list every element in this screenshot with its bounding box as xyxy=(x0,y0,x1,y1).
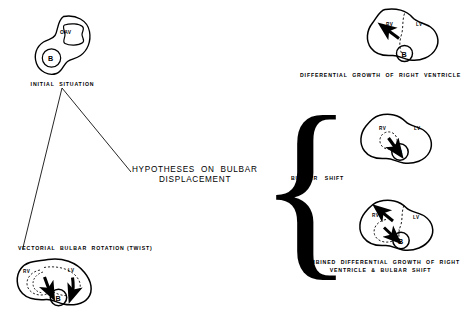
label-b-combined: B xyxy=(398,237,403,246)
label-lv-twist: LV xyxy=(68,268,75,273)
label-b-bulbar-shift: B xyxy=(397,148,402,157)
caption-initial-situation: INITIAL SITUATION xyxy=(0,81,125,89)
caption-vectorial-bulbar-rotation: VECTORIAL BULBAR ROTATION (TWIST) xyxy=(18,245,218,253)
label-b-initial: B xyxy=(48,54,53,63)
label-rv-twist: RV xyxy=(23,269,30,274)
caption-combined-line1: COMBINED DIFFERENTIAL GROWTH OF RIGHT xyxy=(290,259,471,267)
bulbar-displacement-figure: OAV B INITIAL SITUATION VECTORIAL BULBAR… xyxy=(0,0,471,327)
label-rv-differential-growth: RV xyxy=(386,22,393,27)
combined-shape xyxy=(360,200,433,250)
label-b-differential-growth: B xyxy=(402,50,407,59)
twist-shape xyxy=(17,259,91,306)
main-label-line2: DISPLACEMENT xyxy=(159,175,231,186)
label-rv-combined: RV xyxy=(372,213,379,218)
label-bulbar-shift: BULBAR SHIFT xyxy=(291,175,411,183)
connector-lines xyxy=(23,88,132,250)
label-lv-bulbar-shift: LV xyxy=(414,126,421,131)
label-b-twist: B xyxy=(56,294,61,303)
label-rv-bulbar-shift: RV xyxy=(379,126,386,131)
label-oav: OAV xyxy=(60,29,71,35)
diagram-artwork xyxy=(0,0,471,327)
grouping-brace: { xyxy=(258,86,354,286)
main-label-line1: HYPOTHESES ON BULBAR xyxy=(132,165,258,176)
label-lv-combined: LV xyxy=(413,215,420,220)
caption-differential-growth: DIFFERENTIAL GROWTH OF RIGHT VENTRICLE xyxy=(290,72,471,80)
initial-situation-shape xyxy=(35,16,90,74)
label-lv-differential-growth: LV xyxy=(416,22,423,27)
caption-combined-line2: VENTRICLE & BULBAR SHIFT xyxy=(290,267,471,275)
